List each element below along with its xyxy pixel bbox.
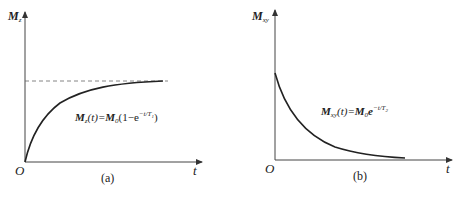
panel-b-caption: (b) (353, 170, 367, 182)
panel-a-y-axis-label: Mz (8, 10, 21, 24)
panel-b-origin-label: O (265, 162, 274, 175)
panel-a-formula: Mz(t)=M0(1−e−t/T1) (75, 111, 158, 125)
formula-b-exponent-subscript: 2 (386, 108, 389, 113)
panel-b-plot (275, 10, 452, 160)
formula-a-exponent: −t/T (139, 110, 152, 118)
panel-a-y-axis-subscript: z (19, 16, 22, 24)
formula-b-exponent: −t/T (373, 104, 386, 112)
formula-b-lhs-arg: (t)= (337, 105, 355, 117)
formula-b-rhs-symbol: M (355, 105, 365, 117)
panel-a-plot (25, 12, 202, 162)
formula-b-lhs-symbol: M (321, 105, 331, 117)
panel-b-t-label: t (446, 162, 450, 175)
panel-a-caption: (a) (101, 172, 114, 184)
panel-a-t-label: t (193, 164, 197, 177)
diagram-canvas (0, 0, 460, 197)
panel-b-y-axis-subscript: xy (263, 16, 269, 24)
panel-b-formula: Mxy(t)=M0e−t/T2 (321, 105, 388, 119)
formula-a-rhs-symbol: M (105, 111, 115, 123)
panel-b-y-axis-label: Mxy (252, 10, 269, 24)
formula-a-lhs-symbol: M (75, 111, 85, 123)
panel-b-y-axis-symbol: M (252, 9, 263, 23)
formula-a-lhs-arg: (t)= (88, 111, 106, 123)
panel-a-origin-label: O (15, 164, 24, 177)
formula-a-rhs-open: (1−e (119, 111, 139, 123)
formula-a-rhs-close: ) (154, 111, 158, 123)
panel-a-y-axis-symbol: M (8, 9, 19, 23)
